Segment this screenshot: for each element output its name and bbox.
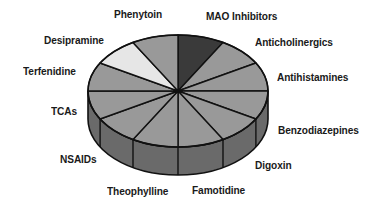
slice-label-terfenidine: Terfenidine [23,65,76,77]
slice-label-famotidine: Famotidine [192,184,245,196]
slice-label-benzodiazepines: Benzodiazepines [278,124,359,136]
slice-label-anticholinergics: Anticholinergics [255,36,333,48]
slice-label-antihistamines: Antihistamines [277,71,348,83]
slice-label-theophylline: Theophylline [107,185,168,197]
slice-label-phenytoin: Phenytoin [114,8,162,20]
slice-label-digoxin: Digoxin [255,159,291,171]
pie-chart [0,0,373,208]
slice-label-mao-inhibitors: MAO Inhibitors [206,10,277,22]
slice-label-nsaids: NSAIDs [60,153,97,165]
slice-label-desipramine: Desipramine [44,34,104,46]
slice-label-tcas: TCAs [51,105,77,117]
pie-top [88,35,268,147]
